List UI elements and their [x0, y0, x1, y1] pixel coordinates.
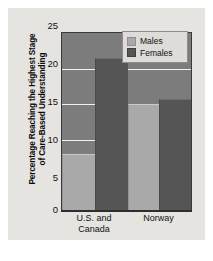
legend-label-females: Females — [140, 48, 173, 58]
x-tick-us-canada-line1: U.S. and — [61, 213, 127, 224]
legend-item-females[interactable]: Females — [127, 47, 183, 58]
y-tick-15: 15 — [36, 97, 58, 107]
chart-legend: Males Females — [122, 31, 188, 63]
x-tick-norway: Norway — [127, 213, 190, 224]
chart-figure: Percentage Reaching the Highest Stage of… — [0, 0, 213, 261]
bar-norway-females[interactable] — [159, 99, 191, 211]
legend-item-males[interactable]: Males — [127, 36, 183, 47]
x-tick-norway-line1: Norway — [127, 213, 190, 224]
legend-label-males: Males — [140, 36, 163, 46]
y-tick-10: 10 — [36, 135, 58, 145]
y-tick-20: 20 — [36, 59, 58, 69]
bar-us-canada-males[interactable] — [62, 154, 95, 211]
x-axis-tick-labels: U.S. and Canada Norway — [61, 213, 190, 243]
x-tick-us-canada-line2: Canada — [61, 224, 127, 235]
y-axis-tick-labels: 25 20 15 10 5 — [36, 26, 58, 216]
legend-swatch-females-icon — [127, 48, 136, 57]
y-tick-25: 25 — [36, 21, 58, 31]
y-tick-0: 0 — [36, 205, 58, 215]
x-axis-line — [61, 210, 192, 212]
legend-swatch-males-icon — [127, 37, 136, 46]
y-tick-5: 5 — [36, 173, 58, 183]
x-tick-us-canada: U.S. and Canada — [61, 213, 127, 235]
bar-us-canada-females[interactable] — [95, 58, 128, 211]
bar-norway-males[interactable] — [128, 104, 159, 211]
